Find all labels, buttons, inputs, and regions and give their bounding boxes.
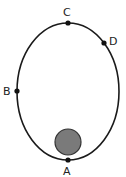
- orbit-point-c: [65, 20, 70, 25]
- point-label-b: B: [3, 85, 11, 98]
- point-label-d: D: [109, 35, 117, 48]
- orbit-point-a: [65, 157, 70, 162]
- orbit-point-b: [14, 88, 19, 93]
- point-label-a: A: [63, 165, 71, 177]
- orbit-diagram: ABCD: [0, 0, 126, 177]
- central-body-planet: [55, 129, 81, 155]
- orbit-point-d: [101, 40, 106, 45]
- point-label-c: C: [63, 6, 71, 19]
